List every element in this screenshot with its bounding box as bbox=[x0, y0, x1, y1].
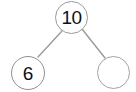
left-part-node-label: 6 bbox=[23, 63, 34, 82]
edge-total-to-right-part bbox=[82, 29, 105, 58]
left-part-node: 6 bbox=[11, 56, 45, 90]
total-node-label: 10 bbox=[61, 8, 81, 27]
number-bond-diagram: 10 6 bbox=[0, 0, 136, 92]
right-part-node[interactable] bbox=[97, 56, 130, 89]
edge-total-to-left-part bbox=[38, 31, 62, 57]
total-node: 10 bbox=[55, 1, 88, 34]
